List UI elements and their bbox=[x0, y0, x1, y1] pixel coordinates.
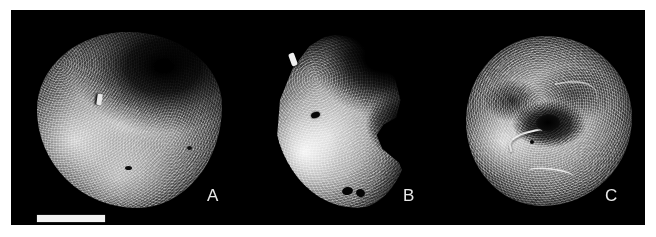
specimen-c-pore-icon bbox=[530, 140, 534, 144]
specimen-b-chip-icon bbox=[288, 52, 298, 66]
specimen-a-image bbox=[37, 32, 222, 208]
image-panel: A B C bbox=[11, 10, 645, 225]
specimen-a-label: A bbox=[207, 187, 219, 204]
specimen-b-image bbox=[273, 34, 413, 208]
scale-bar bbox=[37, 215, 105, 222]
specimen-b-label: B bbox=[403, 187, 415, 204]
specimen-a-pore-icon bbox=[125, 166, 132, 170]
figure-plate: A B C bbox=[0, 0, 656, 237]
specimen-c-label: C bbox=[605, 187, 618, 204]
specimen-c-image bbox=[466, 36, 632, 206]
specimen-a-texture bbox=[37, 32, 222, 208]
specimen-a-pore-icon bbox=[187, 146, 192, 150]
